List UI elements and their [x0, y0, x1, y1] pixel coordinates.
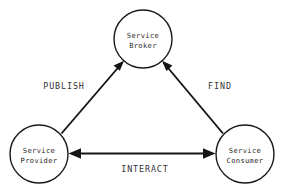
edge-publish-line: [62, 63, 123, 134]
edge-interact: INTERACT: [69, 148, 216, 174]
node-service-provider-label-line1: Service: [23, 146, 55, 155]
node-service-provider-label-line2: Provider: [21, 156, 58, 165]
edge-find-label: FIND: [208, 81, 232, 91]
node-service-consumer-label-line1: Service: [229, 146, 261, 155]
edge-find: FIND: [162, 61, 232, 134]
soa-triangle-diagram: PUBLISH FIND INTERACT Service Broker Ser…: [0, 0, 284, 194]
edge-interact-arrowhead-right-icon: [203, 148, 216, 158]
edge-interact-label: INTERACT: [121, 164, 169, 174]
diagram-canvas: PUBLISH FIND INTERACT Service Broker Ser…: [0, 0, 284, 194]
node-service-consumer-label-line2: Consumer: [227, 156, 264, 165]
edge-publish: PUBLISH: [43, 61, 124, 134]
node-service-broker-label-line2: Broker: [129, 41, 157, 50]
edge-publish-label: PUBLISH: [43, 81, 85, 91]
edge-interact-arrowhead-left-icon: [69, 148, 82, 158]
node-service-broker[interactable]: Service Broker: [114, 10, 172, 68]
node-service-broker-label-line1: Service: [127, 31, 159, 40]
node-service-provider[interactable]: Service Provider: [10, 125, 68, 183]
edge-publish-arrowhead-icon: [114, 61, 124, 71]
edge-find-arrowhead-icon: [162, 61, 172, 71]
edge-find-line: [164, 63, 224, 134]
node-service-consumer[interactable]: Service Consumer: [216, 125, 274, 183]
